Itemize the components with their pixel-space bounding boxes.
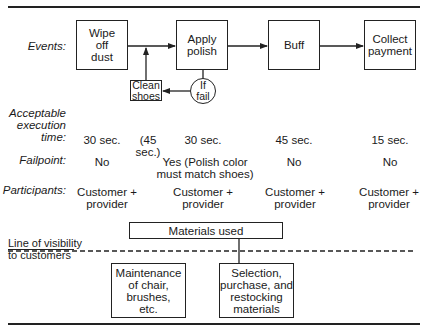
row-label-execution-time: Acceptable execution time: bbox=[4, 107, 66, 143]
row-label-failpoint: Failpoint: bbox=[4, 154, 66, 166]
time-wipe: 30 sec. bbox=[76, 134, 128, 146]
visibility-label-underline bbox=[8, 249, 74, 250]
row-label-participants: Participants: bbox=[0, 184, 66, 196]
failpoint-payment: No bbox=[354, 156, 426, 168]
failpoint-polish: Yes (Polish color must match shoes) bbox=[150, 156, 260, 180]
event-box-apply-polish: Apply polish bbox=[176, 20, 228, 70]
time-payment: 15 sec. bbox=[354, 134, 426, 146]
event-box-buff: Buff bbox=[268, 20, 320, 70]
time-buff: 45 sec. bbox=[258, 134, 330, 146]
failpoint-buff: No bbox=[258, 156, 330, 168]
failpoint-wipe: No bbox=[72, 156, 132, 168]
event-box-collect-payment: Collect payment bbox=[364, 20, 416, 70]
if-fail-decision: If fail bbox=[190, 78, 216, 104]
participants-payment: Customer + provider bbox=[352, 186, 426, 210]
event-box-wipe-off-dust: Wipe off dust bbox=[76, 20, 128, 70]
participants-polish: Customer + provider bbox=[166, 186, 240, 210]
materials-used-box: Materials used bbox=[129, 222, 283, 239]
participants-wipe: Customer + provider bbox=[72, 186, 142, 210]
selection-box: Selection, purchase, and restocking mate… bbox=[219, 263, 294, 318]
participants-buff: Customer + provider bbox=[258, 186, 332, 210]
row-label-events: Events: bbox=[4, 40, 66, 52]
maintenance-box: Maintenance of chair, brushes, etc. bbox=[111, 263, 186, 318]
time-polish: 30 sec. bbox=[170, 134, 236, 146]
clean-shoes-box: Clean shoes bbox=[130, 80, 162, 101]
time-clean-shoes: (45 sec.) bbox=[126, 134, 170, 158]
